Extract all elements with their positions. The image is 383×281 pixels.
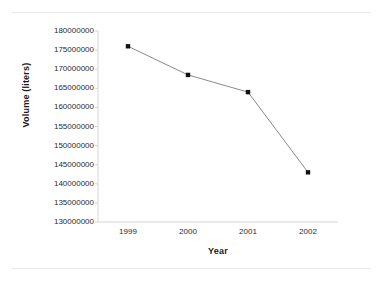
y-axis-tick-label: 145000000 [8, 161, 94, 169]
y-axis-tick-label: 135000000 [8, 199, 94, 207]
data-series-markers [126, 44, 310, 174]
x-axis-title: Year [98, 246, 338, 256]
x-axis-tick-label: 2001 [226, 228, 270, 236]
line-chart-svg [98, 31, 338, 222]
data-point-marker [126, 44, 130, 48]
data-point-marker [306, 170, 310, 174]
y-axis-tick-label: 175000000 [8, 46, 94, 54]
y-axis-tick-label: 130000000 [8, 218, 94, 226]
data-point-marker [186, 73, 190, 77]
x-axis-tick-label: 2000 [166, 228, 210, 236]
y-axis-tick-label: 140000000 [8, 180, 94, 188]
y-axis-tick-label: 180000000 [8, 27, 94, 35]
x-axis-tick-label: 1999 [106, 228, 150, 236]
figure-bottom-rule [12, 268, 371, 269]
y-axis-tick-label: 150000000 [8, 142, 94, 150]
chart-figure: Volume (liters) 180000000175000000170000… [0, 0, 383, 281]
data-series-line [128, 46, 308, 172]
y-axis-tick-label: 155000000 [8, 123, 94, 131]
x-axis-tick-label: 2002 [286, 228, 330, 236]
x-axis-tick-labels: 1999200020012002 [98, 228, 338, 242]
data-point-marker [246, 90, 250, 94]
y-axis-tick-labels: 1800000001750000001700000001650000001600… [4, 31, 94, 222]
figure-top-rule [12, 12, 371, 13]
y-axis-tick-label: 170000000 [8, 65, 94, 73]
y-axis-tick-label: 165000000 [8, 84, 94, 92]
axis-lines [98, 31, 338, 222]
plot-area [98, 31, 338, 222]
y-axis-tick-label: 160000000 [8, 103, 94, 111]
